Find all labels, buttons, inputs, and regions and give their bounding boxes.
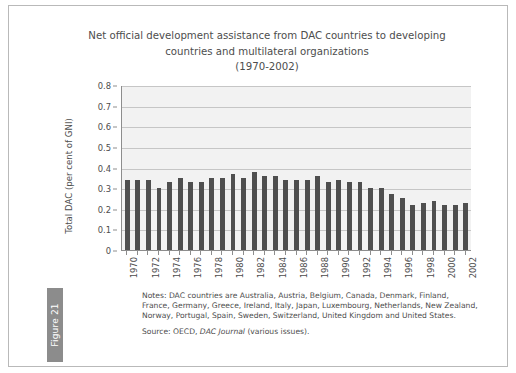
bar — [241, 178, 246, 250]
bar — [347, 182, 352, 250]
bar — [326, 182, 331, 250]
chart-title-line-1: Net official development assistance from… — [57, 28, 477, 44]
y-axis-tick-mark — [113, 147, 117, 148]
x-axis-tick-label: 2000 — [447, 257, 457, 278]
bar — [421, 203, 426, 250]
x-axis-tick-mark — [190, 251, 191, 255]
plot-area — [121, 86, 471, 251]
bar — [453, 205, 458, 250]
y-axis-title-label: Total DAC (per cent of GNI) — [64, 118, 74, 234]
x-axis-tick-mark — [348, 251, 349, 255]
gridline — [122, 86, 471, 87]
bar — [178, 178, 183, 250]
y-axis-tick-label: 0.5 — [98, 143, 111, 153]
x-axis-tick-label: 1982 — [256, 257, 266, 278]
y-axis-title: Total DAC (per cent of GNI) — [61, 98, 77, 254]
y-axis-tick-mark — [113, 127, 117, 128]
y-axis-tick-mark — [113, 209, 117, 210]
plot-wrapper: 0.80.70.60.50.40.30.20.10 — [85, 86, 471, 251]
bar — [252, 172, 257, 250]
gridline — [122, 169, 471, 170]
x-axis-tick-mark — [412, 251, 413, 255]
x-axis-tick-mark — [285, 251, 286, 255]
bar — [358, 182, 363, 250]
y-axis-tick-label: 0.4 — [98, 164, 111, 174]
x-axis-tick-mark — [306, 251, 307, 255]
bar — [368, 188, 373, 250]
x-axis-tick-label: 2002 — [468, 257, 478, 278]
bar — [463, 203, 468, 250]
bar — [315, 176, 320, 250]
x-axis-tick-mark — [243, 251, 244, 255]
x-axis-tick-mark — [465, 251, 466, 255]
x-axis-tick-mark — [444, 251, 445, 255]
x-axis-tick-label: 1976 — [193, 257, 203, 278]
x-axis-tick-mark — [359, 251, 360, 255]
y-axis-tick-mark — [113, 168, 117, 169]
y-axis-tick-mark — [113, 86, 117, 87]
y-axis-tick-mark — [113, 251, 117, 252]
bar — [135, 180, 140, 250]
x-axis-tick-label: 1998 — [426, 257, 436, 278]
chart-title-line-2: countries and multilateral organizations — [57, 44, 477, 60]
notes-line-1: Notes: DAC countries are Australia, Aust… — [142, 291, 482, 301]
bar — [442, 205, 447, 250]
bar — [410, 205, 415, 250]
notes-line-3: Norway, Portugal, Spain, Sweden, Switzer… — [142, 311, 482, 321]
x-axis-tick-mark — [422, 251, 423, 255]
x-axis-tick-label: 1972 — [151, 257, 161, 278]
x-axis-tick-label: 1970 — [129, 257, 139, 278]
x-axis-tick-mark — [211, 251, 212, 255]
bar — [432, 201, 437, 251]
bar — [146, 180, 151, 250]
x-axis-tick-mark — [179, 251, 180, 255]
y-axis-tick-mark — [113, 189, 117, 190]
x-axis-tick-mark — [370, 251, 371, 255]
chart-title: Net official development assistance from… — [57, 28, 477, 75]
bar — [220, 178, 225, 250]
y-axis-ticks: 0.80.70.60.50.40.30.20.10 — [85, 86, 117, 251]
gridline — [122, 107, 471, 108]
y-axis-tick-label: 0.2 — [98, 205, 111, 215]
bar — [305, 180, 310, 250]
x-axis-tick-mark — [126, 251, 127, 255]
x-axis-tick-label: 1974 — [172, 257, 182, 278]
y-axis-tick-label: 0 — [106, 246, 111, 256]
x-axis-tick-label: 1990 — [341, 257, 351, 278]
x-axis-tick-mark — [327, 251, 328, 255]
x-axis-tick-mark — [296, 251, 297, 255]
x-axis-tick-label: 1986 — [299, 257, 309, 278]
bar — [157, 188, 162, 250]
source-block: Source: OECD, DAC Journal (various issue… — [142, 327, 482, 336]
y-axis-tick-mark — [113, 106, 117, 107]
x-axis-tick-mark — [253, 251, 254, 255]
notes-line-2: France, Germany, Greece, Ireland, Italy,… — [142, 301, 482, 311]
figure-number-label: Figure 21 — [50, 303, 60, 347]
x-axis-tick-label: 1984 — [278, 257, 288, 278]
y-axis-tick-label: 0.6 — [98, 122, 111, 132]
source-prefix: Source: OECD, — [142, 327, 200, 336]
bar — [188, 182, 193, 250]
x-axis-tick-label: 1994 — [383, 257, 393, 278]
x-axis-tick-mark — [338, 251, 339, 255]
x-axis-tick-mark — [221, 251, 222, 255]
x-axis-tick-mark — [264, 251, 265, 255]
x-axis-tick-mark — [391, 251, 392, 255]
x-axis-tick-mark — [433, 251, 434, 255]
bar — [231, 174, 236, 250]
x-axis-tick-mark — [147, 251, 148, 255]
y-axis-tick-label: 0.7 — [98, 102, 111, 112]
x-axis-tick-label: 1988 — [320, 257, 330, 278]
x-axis-tick-label: 1978 — [214, 257, 224, 278]
bar — [379, 188, 384, 250]
x-axis-tick-mark — [169, 251, 170, 255]
bar — [209, 178, 214, 250]
bar — [167, 182, 172, 250]
x-axis-tick-mark — [454, 251, 455, 255]
bar — [125, 180, 130, 250]
x-axis-tick-mark — [232, 251, 233, 255]
bar — [283, 180, 288, 250]
figure-number-tab: Figure 21 — [47, 288, 63, 362]
chart-title-line-3: (1970-2002) — [57, 59, 477, 75]
y-axis-tick-label: 0.8 — [98, 81, 111, 91]
